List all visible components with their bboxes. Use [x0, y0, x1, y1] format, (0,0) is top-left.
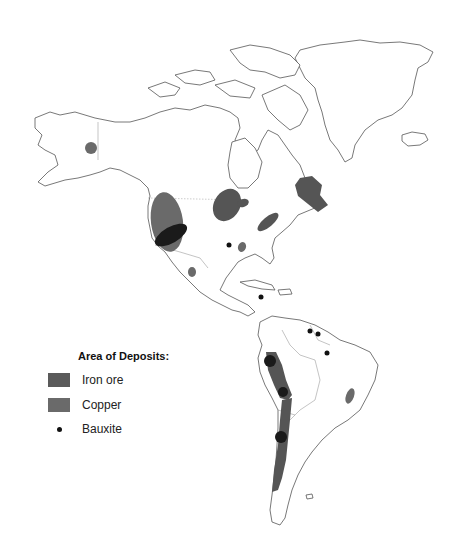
- arctic-islands: [230, 45, 300, 78]
- arctic-islands: [175, 70, 215, 85]
- iron-copper-overlap: [264, 355, 276, 367]
- cuba: [240, 280, 275, 290]
- americas-map: [0, 0, 458, 545]
- falkland-islands: [306, 494, 313, 499]
- legend-item-iron-ore: Iron ore: [48, 372, 123, 388]
- copper-deposit: [188, 267, 196, 277]
- bauxite-dot-icon: [48, 422, 70, 436]
- iron-copper-overlap: [278, 387, 288, 397]
- bauxite-deposit: [325, 351, 330, 356]
- arctic-islands: [148, 82, 180, 97]
- bauxite-deposit: [259, 295, 264, 300]
- baffin-island: [262, 85, 308, 130]
- copper-deposit: [85, 142, 97, 154]
- iron-copper-overlap: [275, 431, 287, 443]
- legend-item-copper: Copper: [48, 397, 121, 413]
- hispaniola: [278, 289, 292, 295]
- legend-label: Bauxite: [82, 422, 122, 436]
- legend-label: Iron ore: [82, 373, 123, 387]
- arctic-islands: [215, 80, 255, 98]
- bauxite-deposit: [308, 329, 313, 334]
- copper-swatch-icon: [48, 398, 70, 412]
- iron-ore-swatch-icon: [48, 373, 70, 387]
- legend-title: Area of Deposits:: [78, 350, 169, 362]
- south-america: [258, 316, 378, 525]
- legend-label: Copper: [82, 398, 121, 412]
- legend-item-bauxite: Bauxite: [48, 421, 122, 437]
- bauxite-deposit: [227, 243, 232, 248]
- iceland: [402, 132, 428, 146]
- bauxite-deposit: [316, 332, 321, 337]
